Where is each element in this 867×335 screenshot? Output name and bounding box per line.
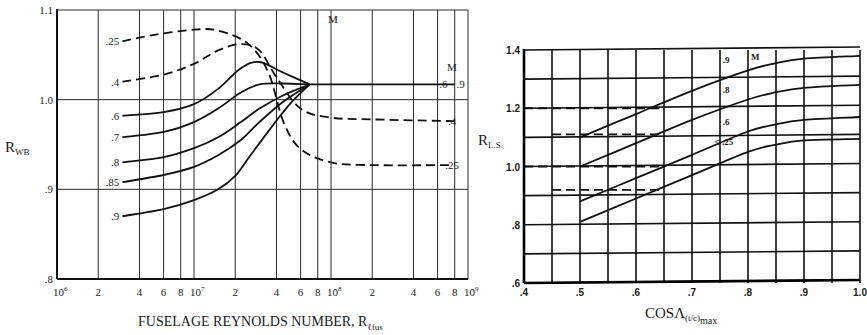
left-y-tick-label: .9 xyxy=(45,183,54,195)
right-series-label: ≤ .25 xyxy=(715,137,734,147)
left-y-axis-label: RWB xyxy=(5,139,30,157)
left-x-tick-label: 6 xyxy=(435,286,441,298)
left-curve-m8 xyxy=(122,84,309,162)
left-x-tick-label: 107 xyxy=(190,285,205,298)
right-horizontal-gridline xyxy=(524,47,860,50)
left-x-tick-label: 6 xyxy=(161,286,167,298)
right-x-tick-label: 1.0 xyxy=(853,287,867,298)
right-dashed-reference-lines xyxy=(524,108,664,190)
left-x-tick-label: 2 xyxy=(232,286,238,298)
left-series-label: .4 xyxy=(111,76,120,88)
right-series-labels: .9.8.6≤ .25 xyxy=(715,55,734,147)
right-x-tick-label: .6 xyxy=(632,287,641,298)
left-x-tick-label: 2 xyxy=(95,286,101,298)
left-right-series-label: M xyxy=(447,61,457,73)
right-chart-rls-vs-cos-sweep: .4.5.6.7.8.91.0.6.81.01.21.4 .9.8.6≤ .25… xyxy=(478,45,867,326)
left-series-label: .8 xyxy=(111,156,120,168)
right-x-tick-label: .5 xyxy=(576,287,585,298)
right-grid xyxy=(524,47,860,283)
left-legend-title: M xyxy=(328,13,338,25)
right-legend-title: M xyxy=(751,52,760,62)
right-x-tick-label: .8 xyxy=(744,287,753,298)
left-x-tick-label: 4 xyxy=(137,286,143,298)
right-x-tick-label: .7 xyxy=(688,287,697,298)
left-x-tick-label: 2 xyxy=(369,286,375,298)
left-x-axis-label: FUSELAGE REYNOLDS NUMBER, Rℓfus xyxy=(138,314,383,332)
left-series-label: .9 xyxy=(111,210,120,222)
left-y-tick-label: .8 xyxy=(45,273,54,285)
left-series-label: .25 xyxy=(106,35,120,47)
right-y-tick-label: 1.0 xyxy=(506,162,520,173)
left-curves xyxy=(122,29,454,216)
left-chart-rwb-vs-reynolds: 1062468107246810824681091.11.0.9.8 .25.4… xyxy=(5,4,479,332)
right-series-label: .6 xyxy=(723,117,730,127)
figure: 1062468107246810824681091.11.0.9.8 .25.4… xyxy=(0,0,867,335)
left-series-label: .85 xyxy=(106,176,120,188)
right-x-axis xyxy=(524,280,860,283)
left-grid xyxy=(57,10,468,279)
charts-canvas: 1062468107246810824681091.11.0.9.8 .25.4… xyxy=(0,0,867,335)
right-x-tick-label: .4 xyxy=(520,287,529,298)
left-right-series-label: .4 xyxy=(448,115,457,127)
left-curve-m6 xyxy=(122,62,309,116)
left-curve-m9 xyxy=(122,84,309,216)
right-y-tick-label: .6 xyxy=(512,278,521,289)
left-right-series-label: .25 xyxy=(445,159,459,171)
left-series-labels: .25.4.6.7.8.85.9M.6 · .9.4.25 xyxy=(106,35,466,222)
left-x-tick-label: 8 xyxy=(452,286,458,298)
left-axes xyxy=(57,9,468,279)
left-series-label: .7 xyxy=(111,131,120,143)
left-x-tick-label: 106 xyxy=(53,285,68,298)
left-y-tick-label: 1.0 xyxy=(39,94,53,106)
right-y-axis-label: RL.S. xyxy=(478,132,503,150)
left-x-tick-label: 4 xyxy=(411,286,417,298)
right-series-label: .8 xyxy=(723,85,730,95)
left-x-tick-label: 8 xyxy=(178,286,184,298)
right-y-tick-label: 1.2 xyxy=(506,103,520,114)
left-series-label: .6 xyxy=(111,110,120,122)
right-y-tick-label: .8 xyxy=(512,220,521,231)
right-tick-labels: .4.5.6.7.8.91.0.6.81.01.21.4 xyxy=(506,45,867,298)
left-x-tick-label: 109 xyxy=(464,285,479,298)
left-right-series-label: .6 · .9 xyxy=(439,78,465,90)
right-series-label: .9 xyxy=(723,55,730,65)
left-x-tick-label: 8 xyxy=(315,286,321,298)
left-x-tick-label: 108 xyxy=(327,285,342,298)
left-y-tick-label: 1.1 xyxy=(39,4,53,16)
left-x-tick-label: 4 xyxy=(274,286,280,298)
right-x-tick-label: .9 xyxy=(800,287,809,298)
right-x-axis-label: COSΛ(t/c)max xyxy=(645,305,717,326)
right-y-tick-label: 1.4 xyxy=(506,45,520,56)
left-x-tick-label: 6 xyxy=(298,286,304,298)
left-curve-m4 xyxy=(122,44,454,121)
